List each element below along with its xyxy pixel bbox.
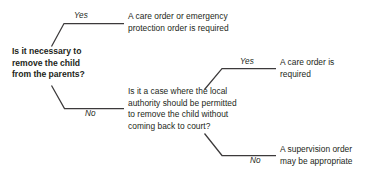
outcome-supervision-order: A supervision order may be appropriate [280, 144, 374, 167]
root-question-node: Is it necessary to remove the child from… [12, 46, 108, 81]
edge-label-no-mid: No [250, 156, 261, 165]
flowchart-canvas: Is it necessary to remove the child from… [0, 0, 378, 184]
edge-label-yes-root: Yes [74, 11, 88, 20]
mid-question-node: Is it a case where the local authority s… [128, 86, 244, 132]
edge-label-yes-mid: Yes [240, 57, 254, 66]
edge-root-yes [52, 24, 125, 47]
outcome-care-or-emergency-protection-order: A care order or emergency protection ord… [128, 11, 250, 34]
outcome-care-order: A care order is required [280, 57, 372, 80]
edge-root-no [52, 86, 125, 109]
edge-mid-no [205, 134, 277, 156]
edge-label-no-root: No [85, 109, 96, 118]
